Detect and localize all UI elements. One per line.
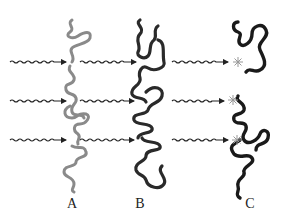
arrow-row-3 [10, 139, 228, 141]
damage-spark-icon [228, 95, 238, 105]
strand-c [232, 22, 269, 198]
wavy-arrow-icon [80, 100, 134, 102]
wavy-arrow-icon [10, 61, 66, 63]
wavy-arrow-icon [10, 139, 66, 141]
panel-label-a: A [67, 196, 77, 212]
panel-label-c: C [245, 196, 254, 212]
wavy-arrow-icon [10, 100, 66, 102]
wavy-arrow-icon [80, 61, 136, 63]
wavy-arrow-icon [172, 61, 228, 63]
diagram-canvas [0, 0, 285, 219]
strand-a [64, 20, 90, 192]
damage-spark-icon [232, 135, 242, 145]
panel-label-b: B [135, 196, 144, 212]
wavy-arrow-icon [80, 139, 134, 141]
arrow-row-2 [10, 100, 224, 102]
strand-b [132, 20, 165, 187]
damage-spark-icon [233, 57, 243, 67]
arrow-row-1 [10, 61, 228, 63]
wavy-arrow-icon [172, 139, 228, 141]
wavy-arrow-icon [172, 100, 224, 102]
